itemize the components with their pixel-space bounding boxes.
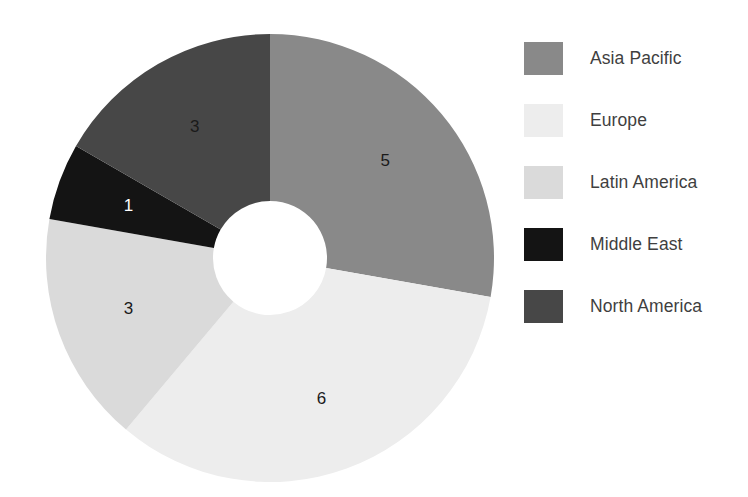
legend-item[interactable]: Middle East	[524, 213, 744, 275]
donut-slices	[46, 34, 494, 482]
donut-plot-area: 56313	[0, 0, 520, 497]
legend-item-label: Asia Pacific	[590, 48, 682, 69]
slice-value-label: 3	[190, 117, 199, 136]
donut-chart-figure: 56313 Asia PacificEuropeLatin AmericaMid…	[0, 0, 748, 497]
legend-swatch-icon	[524, 104, 563, 137]
legend-swatch-icon	[524, 42, 563, 75]
chart-legend: Asia PacificEuropeLatin AmericaMiddle Ea…	[524, 27, 744, 337]
slice-value-label: 6	[317, 389, 326, 408]
legend-item-label: Middle East	[590, 234, 683, 255]
slice-value-label: 1	[124, 196, 133, 215]
legend-swatch-icon	[524, 290, 563, 323]
legend-item[interactable]: Asia Pacific	[524, 27, 744, 89]
donut-svg: 56313	[0, 0, 520, 497]
legend-item-label: Latin America	[590, 172, 697, 193]
legend-swatch-icon	[524, 166, 563, 199]
legend-swatch-icon	[524, 228, 563, 261]
legend-item-label: North America	[590, 296, 702, 317]
legend-item-label: Europe	[590, 110, 647, 131]
slice-value-label: 5	[381, 151, 390, 170]
slice-value-label: 3	[124, 299, 133, 318]
legend-item[interactable]: Latin America	[524, 151, 744, 213]
legend-item[interactable]: North America	[524, 275, 744, 337]
legend-item[interactable]: Europe	[524, 89, 744, 151]
